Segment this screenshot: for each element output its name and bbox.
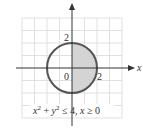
- origin-label: 0: [64, 71, 69, 82]
- y-tick-label: 2: [64, 32, 69, 43]
- inequality-caption: x2 + y2 ≤ 4, x ≥ 0: [32, 104, 100, 116]
- y-axis-arrow-icon: [69, 3, 75, 10]
- x-tick-label: 2: [97, 71, 102, 82]
- region-diagram: x 0 2 2 x2 + y2 ≤ 4, x ≥ 0: [0, 0, 143, 129]
- x-axis-label: x: [136, 62, 142, 73]
- x-axis-arrow-icon: [128, 65, 135, 71]
